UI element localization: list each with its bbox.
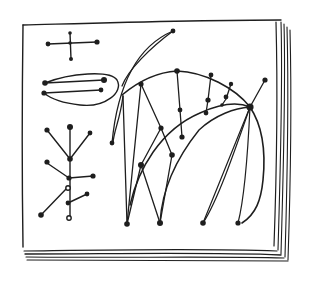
hollow-node [67,216,71,220]
leaf-dot [88,131,93,136]
node-dot [69,57,73,61]
sketch-canvas [0,0,312,288]
leaf-dot [38,212,44,218]
node-dot [68,41,72,45]
node-dot [169,152,175,158]
node-dot [235,220,240,225]
node-dot [200,220,206,226]
tree-graph [38,124,95,220]
node-dot [157,220,163,226]
node-dot [220,103,224,107]
node-dot [138,81,143,86]
node-dot [178,108,183,113]
node-dot [229,82,233,86]
node-dot [99,88,104,93]
junction-dot [67,156,73,162]
node-dot [124,221,130,227]
junction-dot [66,175,71,180]
leaf-dot [85,192,90,197]
node-dot [158,125,163,130]
node-dot [179,134,184,139]
sheet-border [22,20,281,247]
node-dot [41,90,46,95]
leaf-dot [44,127,49,132]
node-dot [262,77,267,82]
junction-dot [66,201,71,206]
leaf-dot [90,173,95,178]
arch-web [113,68,268,227]
cross-graph [46,31,100,61]
loop-graph [41,74,118,106]
node-dot [171,29,176,34]
node-dot [174,68,180,74]
node-dot [94,39,99,44]
sketch-drawing [0,0,312,288]
node-dot [224,95,229,100]
hollow-node [66,186,70,190]
hub-node [246,103,253,110]
node-dot [101,77,107,83]
leaf-dot [44,159,49,164]
node-dot [205,97,210,102]
leaf-dot [67,124,73,130]
node-dot [204,111,209,116]
node-dot [68,31,72,35]
paper-stack [24,22,291,261]
node-dot [46,42,51,47]
node-dot [138,162,144,168]
node-dot [209,73,214,78]
node-dot [42,80,48,86]
